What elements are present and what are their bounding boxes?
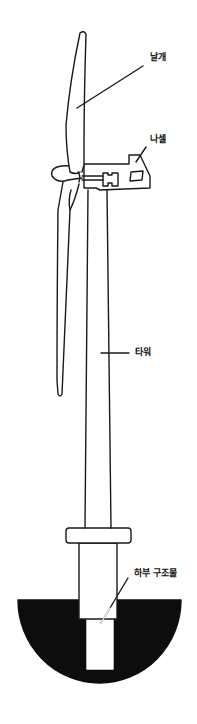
lower-blade xyxy=(57,182,79,396)
wind-turbine-illustration xyxy=(0,0,197,724)
upper-blade xyxy=(66,32,86,174)
label-blade: 날개 xyxy=(150,53,166,62)
nacelle-window xyxy=(130,171,143,181)
tower xyxy=(85,190,111,528)
foundation-pile xyxy=(87,619,113,669)
transition-piece xyxy=(79,543,117,619)
label-substructure: 하부 구조물 xyxy=(134,569,177,578)
wind-turbine-diagram: 날개 나셀 타워 하부 구조물 xyxy=(0,0,197,724)
leader-blade xyxy=(77,66,143,108)
label-nacelle: 나셀 xyxy=(150,135,166,144)
label-tower: 타워 xyxy=(135,348,151,357)
tower-flange xyxy=(66,528,131,543)
